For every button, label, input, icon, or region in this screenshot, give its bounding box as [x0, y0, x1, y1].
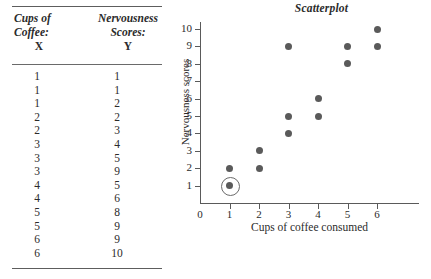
- table-cell-x: 2: [12, 111, 84, 125]
- data-point: [374, 43, 381, 50]
- table-row: 35: [12, 152, 162, 166]
- table-row: 46: [12, 192, 162, 206]
- table-cell-y: 9: [84, 220, 162, 234]
- y-axis-tick: [195, 116, 200, 117]
- data-point: [374, 26, 381, 33]
- table-row: 11: [12, 84, 162, 98]
- y-axis-tick: [195, 186, 200, 187]
- y-axis-tick: [195, 168, 200, 169]
- table-header-x-variable: X: [14, 40, 86, 54]
- y-axis-line: [200, 22, 201, 204]
- table-cell-x: 1: [12, 97, 84, 111]
- table-cell-x: 5: [12, 206, 84, 220]
- table-header-y-line1: Nervousness: [92, 12, 164, 26]
- table-header-rule: [12, 64, 162, 65]
- table-header-y-variable: Y: [92, 40, 164, 54]
- table-cell-y: 1: [84, 84, 162, 98]
- table-cell-x: 6: [12, 247, 84, 261]
- table-header-row: Cups of Coffee: X Nervousness Scores: Y: [12, 12, 162, 62]
- table-cell-y: 1: [84, 70, 162, 84]
- data-point: [315, 113, 322, 120]
- y-axis-tick: [195, 151, 200, 152]
- table-cell-y: 3: [84, 124, 162, 138]
- data-point: [285, 43, 292, 50]
- scatterplot-panel: Scatterplot 12345678910 0123456 Nervousn…: [178, 0, 431, 279]
- table-row: 12: [12, 97, 162, 111]
- data-point: [315, 95, 322, 102]
- table-header-x: Cups of Coffee: X: [14, 12, 86, 54]
- table-row: 34: [12, 138, 162, 152]
- table-row: 11: [12, 70, 162, 84]
- x-axis-tick-label: 6: [367, 208, 387, 220]
- table-cell-x: 5: [12, 220, 84, 234]
- table-cell-x: 4: [12, 192, 84, 206]
- y-axis-title: Nervousness scores: [179, 17, 191, 187]
- y-axis-tick: [195, 133, 200, 134]
- x-axis-tick-label: 3: [279, 208, 299, 220]
- data-point: [226, 165, 233, 172]
- x-axis-line: [200, 203, 419, 204]
- table-header-y: Nervousness Scores: Y: [92, 12, 164, 54]
- data-point: [256, 165, 263, 172]
- table-cell-x: 1: [12, 84, 84, 98]
- table-cell-y: 5: [84, 179, 162, 193]
- table-cell-y: 2: [84, 111, 162, 125]
- y-axis-tick: [195, 46, 200, 47]
- table-cell-y: 5: [84, 152, 162, 166]
- table-cell-x: 2: [12, 124, 84, 138]
- table-cell-x: 3: [12, 165, 84, 179]
- table-cell-y: 2: [84, 97, 162, 111]
- x-axis-tick-label: 1: [220, 208, 240, 220]
- table-cell-x: 3: [12, 152, 84, 166]
- y-axis-tick: [195, 81, 200, 82]
- table-cell-y: 8: [84, 206, 162, 220]
- table-row: 610: [12, 247, 162, 261]
- x-axis-tick-label: 0: [190, 208, 210, 220]
- table-bottom-rule: [12, 268, 162, 269]
- data-point: [344, 43, 351, 50]
- table-header-y-line2: Scores:: [92, 26, 164, 40]
- table-cell-x: 3: [12, 138, 84, 152]
- table-row: 39: [12, 165, 162, 179]
- plot-area: 12345678910 0123456 Nervousness scores C…: [178, 0, 431, 279]
- table-cell-y: 10: [84, 247, 162, 261]
- table-cell-y: 9: [84, 165, 162, 179]
- y-axis-tick: [195, 29, 200, 30]
- y-axis-tick: [195, 99, 200, 100]
- data-point: [285, 113, 292, 120]
- table-cell-x: 4: [12, 179, 84, 193]
- table-row: 23: [12, 124, 162, 138]
- table-cell-x: 1: [12, 70, 84, 84]
- data-point: [256, 147, 263, 154]
- table-header-x-line2: Coffee:: [14, 26, 86, 40]
- x-axis-tick-label: 2: [249, 208, 269, 220]
- table-cell-y: 6: [84, 192, 162, 206]
- x-axis-tick-label: 5: [338, 208, 358, 220]
- table-cell-y: 4: [84, 138, 162, 152]
- table-body: 11111222233435394546585969610: [12, 70, 162, 260]
- table-cell-x: 6: [12, 233, 84, 247]
- data-point: [285, 130, 292, 137]
- table-cell-y: 9: [84, 233, 162, 247]
- x-axis-tick-label: 4: [308, 208, 328, 220]
- data-table-panel: Cups of Coffee: X Nervousness Scores: Y …: [0, 0, 178, 279]
- table-row: 22: [12, 111, 162, 125]
- table-row: 59: [12, 220, 162, 234]
- table-row: 58: [12, 206, 162, 220]
- table-header-x-line1: Cups of: [14, 12, 86, 26]
- data-point: [344, 60, 351, 67]
- x-axis-title: Cups of coffee consumed: [200, 221, 419, 233]
- table-row: 45: [12, 179, 162, 193]
- y-axis-tick: [195, 64, 200, 65]
- table-top-rule: [12, 6, 162, 7]
- table-row: 69: [12, 233, 162, 247]
